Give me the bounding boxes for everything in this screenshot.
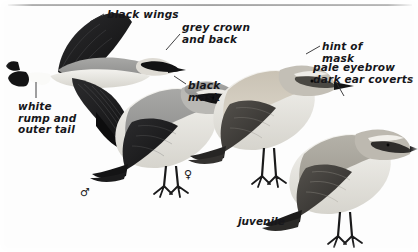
caption-male-symbol: ♂: [80, 186, 90, 199]
leader-hint-of-mask: [306, 46, 320, 54]
annotation-white-rump-and-outer-tail: white rump and outer tail: [18, 101, 76, 136]
figure-juvenile-wheatear: [262, 130, 418, 248]
annotation-pale-eyebrow-dark-ear-coverts: pale eyebrow dark ear coverts: [313, 62, 414, 85]
annotation-black-wings: black wings: [107, 9, 179, 21]
annotation-black-mask: black mask: [188, 80, 220, 103]
caption-juvenile: juvenile: [238, 215, 285, 227]
leader-black-mask: [174, 76, 186, 84]
leader-grey-crown: [166, 34, 180, 50]
illustration-plate: black wings grey crown and back black ma…: [0, 0, 418, 252]
caption-female-symbol: ♀: [184, 168, 192, 181]
annotation-grey-crown-and-back: grey crown and back: [182, 22, 250, 45]
